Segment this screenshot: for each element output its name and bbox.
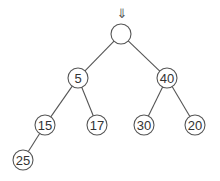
- node-label: 17: [90, 118, 104, 133]
- tree-node-40: 40: [157, 68, 177, 88]
- tree-node-25: 25: [13, 150, 33, 170]
- tree-node-17: 17: [87, 115, 107, 135]
- node-label: 15: [38, 118, 52, 133]
- edge-root-n40: [128, 41, 160, 71]
- edge-n15-n25: [28, 133, 39, 151]
- node-label: 30: [137, 118, 151, 133]
- edges-layer: [28, 41, 190, 152]
- edge-n40-n30: [148, 87, 162, 116]
- node-label: 20: [188, 118, 202, 133]
- binary-tree-diagram: 5401517302025 ⇓: [0, 0, 220, 181]
- tree-node-30: 30: [134, 115, 154, 135]
- edge-n5-n15: [51, 86, 73, 117]
- node-label: 40: [160, 71, 174, 86]
- root-pointer-arrow-icon: ⇓: [117, 6, 128, 21]
- edge-n40-n20: [172, 87, 190, 117]
- edge-n5-n17: [82, 87, 94, 115]
- tree-node-15: 15: [35, 115, 55, 135]
- tree-node-20: 20: [185, 115, 205, 135]
- edge-root-n5: [85, 41, 114, 71]
- tree-node-5: 5: [68, 68, 88, 88]
- node-label: 25: [16, 153, 30, 168]
- tree-root-node: [111, 24, 131, 44]
- node-label: 5: [74, 71, 81, 86]
- node-circle: [111, 24, 131, 44]
